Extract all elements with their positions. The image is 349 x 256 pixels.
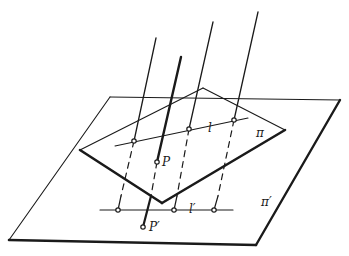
label-P-prime: P′ (149, 221, 160, 233)
label-l-prime: l′ (189, 203, 196, 215)
point-l-prime-2 (172, 208, 176, 212)
point-P (155, 160, 159, 164)
point-P-prime (141, 225, 145, 229)
point-l-prime-1 (116, 208, 120, 212)
point-l-2 (187, 127, 191, 131)
plane-pi (80, 88, 285, 203)
dashed-projections (121, 120, 234, 196)
label-pi: π (256, 127, 264, 139)
point-l-3 (232, 118, 236, 122)
point-l-prime-3 (212, 208, 216, 212)
points (116, 118, 236, 229)
label-P: P (162, 156, 170, 168)
projection-rays (134, 12, 258, 162)
plane-pi-prime (9, 97, 340, 245)
projection-diagram (0, 0, 349, 256)
label-pi-prime: π′ (261, 196, 272, 208)
label-l: l (208, 122, 212, 134)
point-l-1 (132, 139, 136, 143)
